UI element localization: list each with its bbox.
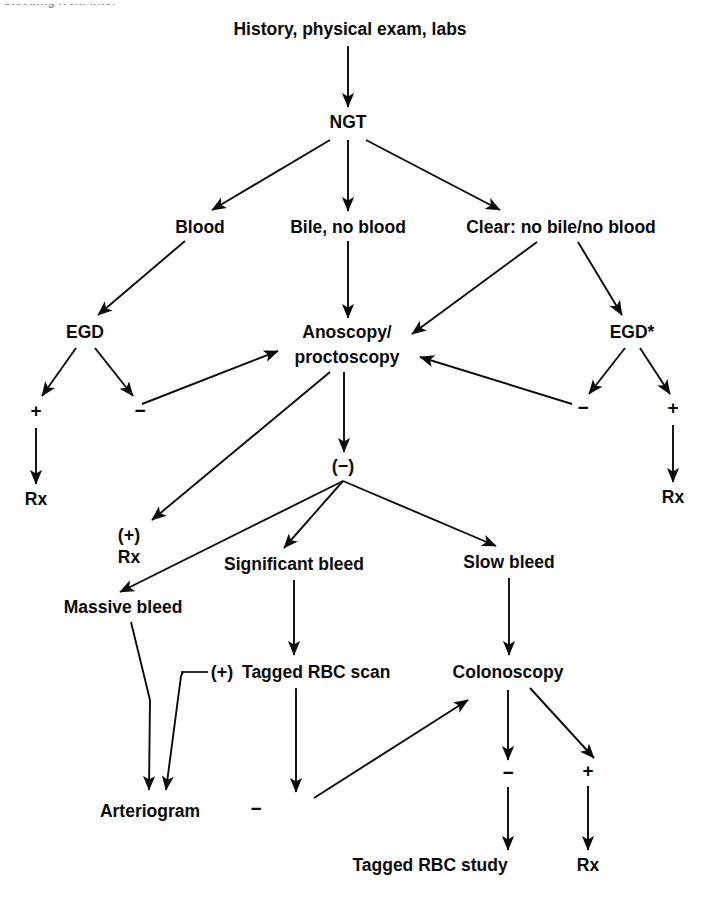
node-layer: History, physical exam, labs NGT Blood B… (25, 19, 685, 875)
node-slow-bleed: Slow bleed (463, 552, 554, 572)
edge-layer (36, 46, 673, 850)
flowchart-page: bleeding from into: (0, 0, 714, 902)
edge-tagged-rbc-scan-positive-to-arteriogram (166, 672, 183, 790)
edge-colonoscopy-to-plus (530, 688, 594, 758)
node-significant-bleed: Significant bleed (224, 554, 364, 574)
edge-clear-to-anoscopy (412, 242, 537, 334)
edge-egd-right-to-minus (589, 348, 625, 394)
node-egd-right-minus: − (577, 397, 588, 418)
edge-negative-to-slow-bleed (343, 481, 496, 546)
edge-ngt-to-clear (366, 140, 500, 210)
edge-egd-right-to-plus (640, 348, 670, 394)
node-anoscopy: Anoscopy/ (302, 322, 392, 342)
edge-blood-to-egd-left (98, 241, 185, 315)
node-egd-left-rx: Rx (25, 489, 48, 509)
edge-egd-left-to-minus (95, 348, 133, 396)
node-blood: Blood (175, 217, 225, 237)
node-colonoscopy-minus: − (502, 762, 513, 783)
node-bile-no-blood: Bile, no blood (290, 217, 406, 237)
node-tagged-rbc-scan-positive: (+) (211, 662, 234, 682)
node-anoscopy-negative: (−) (332, 456, 355, 476)
node-history-physical-exam-labs: History, physical exam, labs (233, 19, 466, 39)
edge-massive-bleed-to-arteriogram (131, 622, 150, 790)
node-arteriogram: Arteriogram (100, 801, 200, 821)
node-egd-left: EGD (66, 322, 104, 342)
node-clear-no-bile-no-blood: Clear: no bile/no blood (466, 217, 656, 237)
node-tagged-rbc-scan-minus: − (250, 798, 261, 819)
node-colonoscopy-rx: Rx (577, 855, 600, 875)
node-anoscopy-positive-rx: Rx (118, 547, 141, 567)
edge-tagged-rbc-minus-to-colonoscopy (314, 700, 468, 798)
edge-clear-to-egd-right (578, 242, 622, 315)
node-egd-right-plus: + (667, 397, 678, 418)
node-colonoscopy-plus: + (582, 760, 593, 781)
node-anoscopy-positive: (+) (118, 525, 141, 545)
node-egd-right: EGD* (610, 322, 655, 342)
edge-egd-left-to-plus (42, 348, 76, 396)
node-ngt: NGT (330, 112, 367, 132)
edge-ngt-to-blood (212, 140, 330, 210)
node-tagged-rbc-study: Tagged RBC study (352, 855, 508, 875)
node-egd-left-minus: − (134, 400, 145, 421)
node-egd-right-rx: Rx (662, 487, 685, 507)
gi-bleeding-algorithm-diagram: History, physical exam, labs NGT Blood B… (0, 0, 714, 902)
node-tagged-rbc-scan: Tagged RBC scan (242, 662, 390, 682)
edge-negative-to-massive-bleed (120, 481, 343, 592)
edge-egd-right-minus-to-anoscopy (420, 357, 572, 404)
node-colonoscopy: Colonoscopy (453, 662, 564, 682)
edge-egd-left-minus-to-anoscopy (142, 351, 278, 404)
edge-anoscopy-to-positive (152, 372, 330, 520)
node-massive-bleed: Massive bleed (64, 597, 183, 617)
node-egd-left-plus: + (30, 400, 41, 421)
edge-negative-to-significant-bleed (284, 481, 343, 548)
node-proctoscopy: proctoscopy (294, 347, 399, 367)
